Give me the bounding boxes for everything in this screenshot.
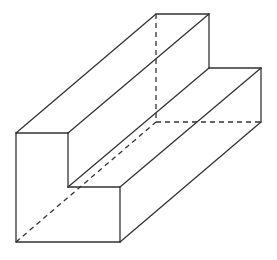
visible-edge: [120, 68, 261, 187]
prism-drawing: [0, 0, 277, 260]
l-shaped-prism-figure: [0, 0, 277, 260]
visible-edge: [68, 68, 209, 187]
visible-edge: [120, 122, 261, 242]
hidden-edge: [16, 122, 156, 242]
visible-edge: [16, 14, 156, 133]
visible-edge: [68, 14, 209, 133]
